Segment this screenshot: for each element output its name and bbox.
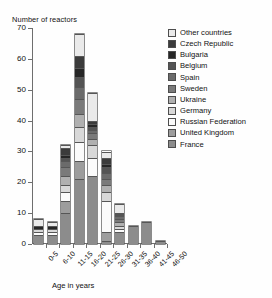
legend-item: Other countries [168, 27, 246, 38]
bar-segment [102, 241, 111, 244]
x-axis-tick [73, 244, 74, 248]
y-axis-tick [28, 151, 32, 152]
legend-item: Sweden [168, 83, 246, 94]
y-axis-tick [28, 90, 32, 91]
legend-item: Ukraine [168, 94, 246, 105]
x-axis-tick-label: 6-10 [61, 250, 76, 265]
x-axis-tick [59, 244, 60, 248]
legend-swatch [168, 62, 176, 70]
legend-item: France [168, 139, 246, 150]
y-axis-tick-label: 10 [17, 209, 26, 217]
x-axis-tick [140, 244, 141, 248]
legend-label: Bulgaria [180, 51, 208, 59]
bar-segment [115, 232, 124, 244]
bar-segment [75, 68, 84, 77]
bar-segment [75, 114, 84, 126]
bar-segment [75, 179, 84, 244]
y-axis-tick-label: 30 [17, 147, 26, 155]
legend-item: Czech Republic [168, 38, 246, 49]
x-axis-tick [167, 244, 168, 248]
bar-6-10 [48, 222, 57, 244]
legend-swatch [168, 40, 176, 48]
y-axis-tick [28, 59, 32, 60]
y-axis-tick [28, 182, 32, 183]
bar-segment [88, 158, 97, 177]
bar-segment [61, 201, 70, 213]
legend-item: Russian Federation [168, 117, 246, 128]
reactor-age-stacked-bar-chart: Number of reactors 010203040506070 Age i… [0, 0, 272, 298]
bar-0-5 [34, 219, 43, 244]
legend-label: Belgium [180, 62, 207, 70]
bar-segment [75, 127, 84, 142]
legend-label: Czech Republic [180, 40, 233, 48]
bar-41-45 [142, 222, 151, 244]
legend-item: United Kingdom [168, 128, 246, 139]
bar-segment [75, 161, 84, 180]
x-axis-tick [46, 244, 47, 248]
legend-swatch [168, 107, 176, 115]
bar-segment [75, 99, 84, 114]
bar-segment [75, 142, 84, 161]
legend-item: Bulgaria [168, 49, 246, 60]
bar-segment [61, 176, 70, 185]
bar-11-15 [61, 145, 70, 244]
x-axis-tick [127, 244, 128, 248]
bar-36-40 [129, 226, 138, 245]
legend-swatch [168, 140, 176, 148]
x-axis-tick [100, 244, 101, 248]
bar-segment [75, 56, 84, 68]
legend-swatch [168, 73, 176, 81]
legend-label: Germany [180, 107, 211, 115]
bar-16-20 [75, 34, 84, 244]
legend-swatch [168, 118, 176, 126]
bar-segment [34, 235, 43, 244]
plot-area: 010203040506070 [32, 28, 167, 244]
bar-segment [88, 176, 97, 244]
y-axis-line [32, 28, 33, 244]
bar-segment [88, 145, 97, 157]
y-axis-tick [28, 28, 32, 29]
legend-label: France [180, 141, 204, 149]
bar-31-35 [115, 204, 124, 244]
legend-item: Spain [168, 72, 246, 83]
legend-label: Ukraine [180, 96, 206, 104]
bar-segment [115, 204, 124, 213]
y-axis-tick-label: 70 [17, 24, 26, 32]
bar-segment [102, 192, 111, 201]
bar-segment [61, 167, 70, 176]
legend-label: Russian Federation [180, 118, 246, 126]
y-axis-tick-label: 20 [17, 178, 26, 186]
bar-segment [88, 93, 97, 121]
bar-segment [75, 34, 84, 56]
bar-26-30 [102, 151, 111, 244]
bar-segment [75, 77, 84, 86]
y-axis-tick [28, 244, 32, 245]
legend-swatch [168, 129, 176, 137]
y-axis-tick [28, 121, 32, 122]
legend-swatch [168, 29, 176, 37]
x-axis-tick [113, 244, 114, 248]
y-axis-tick-label: 50 [17, 86, 26, 94]
bar-segment [129, 226, 138, 245]
legend-label: Other countries [180, 29, 232, 37]
y-axis-tick-label: 40 [17, 117, 26, 125]
bar-segment [61, 192, 70, 201]
legend-item: Germany [168, 105, 246, 116]
legend-label: Sweden [180, 85, 207, 93]
legend-label: United Kingdom [180, 129, 234, 137]
bar-segment [61, 213, 70, 244]
bar-segment [102, 201, 111, 232]
y-axis-tick-label: 0 [22, 240, 26, 248]
legend-item: Belgium [168, 61, 246, 72]
legend-swatch [168, 85, 176, 93]
x-axis-title: Age in years [52, 281, 94, 290]
y-axis-tick [28, 213, 32, 214]
x-axis-tick-label: 0-5 [47, 250, 59, 262]
legend-label: Spain [180, 74, 199, 82]
legend-swatch [168, 51, 176, 59]
bar-segment [156, 241, 165, 244]
bar-segment [142, 222, 151, 244]
legend-swatch [168, 96, 176, 104]
y-axis-tick-label: 60 [17, 55, 26, 63]
x-axis-tick [86, 244, 87, 248]
